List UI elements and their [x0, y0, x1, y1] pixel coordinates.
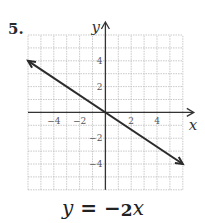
x-axis-label: x	[189, 116, 198, 134]
axes	[28, 22, 194, 190]
svg-text:4: 4	[97, 56, 103, 66]
equation: y = −2x	[62, 196, 144, 220]
y-axis-label: y	[90, 18, 100, 36]
svg-text:−2: −2	[89, 133, 102, 143]
fraction-numerator: 2	[121, 202, 133, 218]
svg-text:2: 2	[128, 116, 134, 126]
svg-text:−2: −2	[73, 116, 86, 126]
equation-rhs-var: x	[133, 196, 144, 220]
equation-sign: −	[104, 196, 121, 220]
svg-text:4: 4	[154, 116, 160, 126]
coordinate-graph: −4−22442−2−4 x y	[0, 0, 205, 223]
svg-text:−4: −4	[47, 116, 61, 126]
svg-text:2: 2	[97, 82, 103, 92]
equation-lhs: y	[62, 196, 73, 220]
svg-text:−4: −4	[89, 159, 103, 169]
equation-equals: =	[80, 196, 97, 220]
equation-fraction: 2	[121, 202, 133, 218]
